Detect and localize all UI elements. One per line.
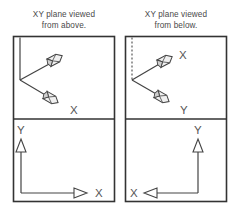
caption-right-line2: from below. <box>155 21 198 30</box>
tr-y-axis-label: Y <box>180 104 188 116</box>
caption-left-line2: from above. <box>42 21 86 30</box>
caption-left-line1: XY plane viewed <box>33 10 96 19</box>
br-y-axis-label: Y <box>194 124 202 136</box>
tl-x-axis-label: X <box>70 104 78 116</box>
br-x-axis-label: X <box>130 187 138 199</box>
figure-background <box>0 0 237 213</box>
xy-plane-orientation-figure: XY plane viewed from above. XY plane vie… <box>0 0 237 213</box>
tr-x-axis-label: X <box>179 49 187 61</box>
bl-y-axis-label: Y <box>17 124 25 136</box>
caption-right-line1: XY plane viewed <box>145 10 208 19</box>
bl-x-axis-label: X <box>95 187 103 199</box>
